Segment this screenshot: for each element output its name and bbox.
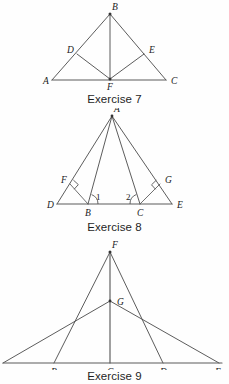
segment-FD bbox=[110, 252, 163, 363]
vertex-label-D: D bbox=[46, 200, 54, 210]
vertex-label-E: E bbox=[148, 45, 155, 55]
angle-arc-2 bbox=[130, 195, 136, 205]
vertex-label-C: C bbox=[171, 76, 178, 86]
figure-caption-exercise-9: Exercise 9 bbox=[0, 369, 229, 383]
figure-caption-exercise-8: Exercise 8 bbox=[0, 220, 229, 234]
vertex-dot-A bbox=[111, 115, 114, 118]
segment-CG bbox=[140, 184, 160, 204]
vertex-label-F: F bbox=[60, 175, 67, 185]
segment-GE bbox=[110, 301, 219, 363]
right-angle-mark-F bbox=[73, 180, 78, 189]
vertex-dot-F bbox=[109, 78, 112, 81]
vertex-dot-B bbox=[109, 13, 112, 16]
figure-exercise-9: F G B C D E Exercise 9 bbox=[0, 238, 229, 384]
diagram-exercise-9: F G B C D E bbox=[0, 238, 229, 370]
vertex-label-G: G bbox=[165, 175, 172, 185]
diagram-exercise-8: A D B C E F G 1 2 bbox=[0, 108, 229, 220]
vertex-label-B: B bbox=[85, 208, 91, 218]
angle-label-2: 2 bbox=[126, 192, 131, 202]
vertex-label-B: B bbox=[112, 2, 118, 12]
vertex-label-A: A bbox=[113, 108, 120, 114]
vertex-label-A: A bbox=[42, 76, 49, 86]
page-canvas: A B C D E F Exercise 7 bbox=[0, 0, 229, 384]
vertex-label-G: G bbox=[117, 297, 124, 307]
figure-exercise-7: A B C D E F Exercise 7 bbox=[0, 0, 229, 110]
segment-FB bbox=[54, 252, 110, 363]
segment-AE bbox=[112, 116, 172, 204]
vertex-dot-G bbox=[109, 300, 112, 303]
vertex-label-D: D bbox=[66, 45, 74, 55]
segment-BF bbox=[70, 184, 88, 204]
segment-AB bbox=[88, 116, 112, 204]
segment-EF bbox=[110, 54, 144, 79]
vertex-label-E: E bbox=[176, 200, 183, 210]
segment-BC bbox=[110, 14, 166, 80]
segment-AB bbox=[52, 14, 110, 80]
vertex-label-C: C bbox=[137, 208, 144, 218]
figure-exercise-8: A D B C E F G 1 2 Exercise 8 bbox=[0, 108, 229, 238]
angle-label-1: 1 bbox=[96, 192, 101, 202]
figure-caption-exercise-7: Exercise 7 bbox=[0, 92, 229, 106]
diagram-exercise-7: A B C D E F bbox=[0, 0, 229, 92]
segment-DF bbox=[77, 54, 110, 79]
vertex-label-F: F bbox=[111, 240, 118, 250]
segment-AC bbox=[112, 116, 140, 204]
segment-AD bbox=[57, 116, 112, 204]
segment-GA bbox=[3, 301, 110, 363]
vertex-label-F: F bbox=[106, 82, 113, 92]
vertex-dot-F bbox=[109, 251, 112, 254]
